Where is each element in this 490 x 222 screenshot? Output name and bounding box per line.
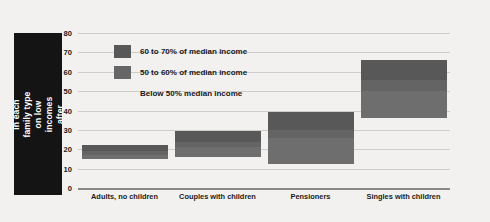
x-axis-tick-label: Adults, no children — [91, 192, 158, 201]
plot-area: 01020304050607080 Adults, no childrenCou… — [78, 33, 450, 188]
bar-segment — [175, 147, 261, 157]
x-axis-line — [78, 188, 450, 190]
chart-legend: 60 to 70% of median income 50 to 60% of … — [114, 41, 344, 104]
bar-segment — [268, 138, 354, 164]
y-axis-tick-label: 40 — [64, 106, 72, 115]
legend-swatch-icon — [114, 87, 131, 100]
legend-item: 60 to 70% of median income — [114, 41, 344, 62]
bar-segment — [82, 155, 168, 159]
gridline — [78, 33, 450, 34]
y-axis-tick-label: 10 — [64, 164, 72, 173]
legend-swatch-icon — [114, 66, 131, 79]
chart-figure: Proportion of individuals in each family… — [0, 0, 490, 222]
legend-swatch-icon — [114, 45, 131, 58]
gridline — [78, 130, 450, 131]
legend-label: Below 50% median income — [140, 89, 242, 98]
bar-1 — [82, 145, 168, 159]
legend-item: 50 to 60% of median income — [114, 62, 344, 83]
bar-segment — [361, 91, 447, 118]
y-axis-tick-label: 80 — [64, 29, 72, 38]
bar-segment — [175, 131, 261, 142]
y-axis-tick-label: 0 — [68, 184, 72, 193]
x-axis-tick-label: Singles with children — [367, 192, 441, 201]
bar-segment — [361, 60, 447, 79]
y-axis-tick-label: 30 — [64, 125, 72, 134]
legend-label: 50 to 60% of median income — [140, 68, 247, 77]
x-axis-tick-label: Pensioners — [291, 192, 331, 201]
bar-4 — [361, 60, 447, 118]
bar-2 — [175, 131, 261, 157]
legend-label: 60 to 70% of median income — [140, 47, 247, 56]
y-axis-tick-label: 70 — [64, 48, 72, 57]
bar-segment — [268, 112, 354, 129]
x-axis-tick-label: Couples with children — [179, 192, 256, 201]
y-axis-tick-label: 60 — [64, 67, 72, 76]
y-axis-title-box: Proportion of individuals in each family… — [14, 33, 62, 195]
bar-3 — [268, 112, 354, 163]
bar-segment — [268, 130, 354, 138]
bar-segment — [361, 80, 447, 92]
y-axis-title: Proportion of individuals in each family… — [14, 90, 62, 138]
legend-item: Below 50% median income — [114, 83, 344, 104]
y-axis-tick-label: 50 — [64, 87, 72, 96]
y-axis-tick-label: 20 — [64, 145, 72, 154]
gridline — [78, 169, 450, 170]
